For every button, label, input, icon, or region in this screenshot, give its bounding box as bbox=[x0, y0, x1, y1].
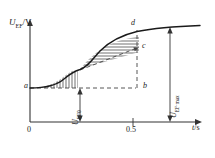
ef0-measure-label: UEF0 bbox=[72, 110, 82, 125]
x-tick-label-0: 0 bbox=[27, 126, 31, 134]
point-label-b: b bbox=[143, 82, 147, 90]
x-axis bbox=[30, 119, 202, 125]
point-label-c: c bbox=[142, 42, 146, 50]
y-axis bbox=[27, 19, 33, 122]
y-axis-label: UEF/V bbox=[9, 18, 31, 30]
ef0-symbol: U bbox=[71, 119, 80, 125]
ef0-subscript: EF0 bbox=[76, 110, 82, 119]
hatch-left-region bbox=[33, 60, 78, 95]
plot-svg bbox=[0, 0, 215, 158]
dashed-chord-to-c bbox=[80, 48, 137, 70]
figure-container: UEF/V a b c d 0 0.5 t/s UEF0 UEF·max bbox=[0, 0, 215, 158]
point-label-a: a bbox=[24, 82, 28, 90]
efmax-subscript: EF·max bbox=[174, 95, 180, 112]
x-axis-label-unit: /s bbox=[194, 123, 199, 132]
efmax-measure-label: UEF·max bbox=[170, 95, 180, 118]
x-tick-label-05: 0.5 bbox=[126, 126, 136, 134]
efmax-symbol: U bbox=[169, 112, 178, 118]
y-axis-label-unit: /V bbox=[22, 17, 31, 27]
x-axis-label: t/s bbox=[192, 124, 200, 132]
point-label-d: d bbox=[131, 19, 135, 27]
